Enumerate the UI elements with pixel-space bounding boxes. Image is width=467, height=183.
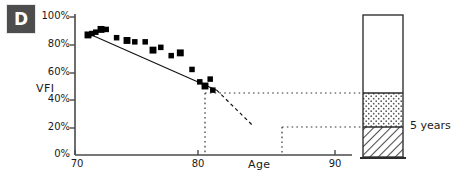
axis-lines (70, 14, 352, 155)
scatter-point (103, 27, 109, 32)
scatter-point (168, 53, 174, 59)
scatter-point (132, 39, 138, 45)
scatter-point (189, 67, 195, 73)
scatter-point (202, 83, 209, 90)
scatter-point (158, 45, 164, 51)
scatter-point (177, 49, 184, 56)
scatter-point (98, 26, 105, 33)
bar-segment-five-year-loss (363, 93, 403, 127)
figure-panel-d: D VFI Age 100% 80% 60% 40% 20% 0% 70 80 … (0, 0, 467, 183)
scatter-points (85, 26, 216, 93)
bar-segment-remaining-reserve (363, 15, 403, 93)
visual-field-reserve-bar (360, 15, 406, 158)
scatter-point (210, 87, 216, 93)
reference-dotted-lines (205, 93, 365, 155)
scatter-point (207, 76, 213, 82)
plot-canvas (0, 0, 467, 183)
extrapolation-dashed-line (217, 90, 252, 125)
bar-segment-residual (363, 127, 403, 157)
five-years-label: 5 years (410, 119, 451, 132)
regression-trend-line (85, 32, 216, 90)
scatter-point (114, 35, 120, 41)
scatter-point (142, 39, 148, 45)
scatter-point (150, 47, 157, 54)
scatter-point (124, 37, 131, 44)
